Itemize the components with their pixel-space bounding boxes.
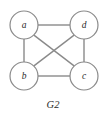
node-d: d (70, 11, 98, 39)
figure-graph-g2: a d b c G2 (0, 0, 107, 121)
node-b: b (10, 62, 38, 90)
node-a: a (10, 11, 38, 39)
graph-canvas: a d b c G2 (0, 0, 107, 121)
node-d-label: d (82, 20, 87, 30)
figure-caption: G2 (46, 99, 60, 110)
node-a-label: a (22, 20, 27, 30)
node-b-label: b (22, 71, 27, 81)
node-c: c (70, 62, 98, 90)
